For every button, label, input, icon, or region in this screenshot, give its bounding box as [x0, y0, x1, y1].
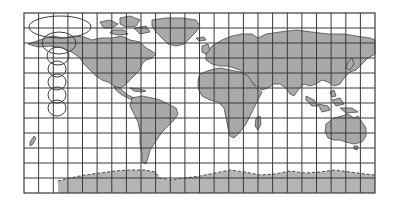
north-america [28, 36, 156, 90]
iceland [196, 37, 206, 41]
caribbean-islands [130, 88, 146, 92]
new-zealand [30, 136, 36, 146]
antarctica [58, 170, 375, 193]
arctic-islands [100, 16, 150, 35]
distortion-ellipse [48, 61, 66, 77]
distortion-ellipse [48, 100, 66, 116]
distortion-ellipse [47, 47, 69, 65]
distortion-ellipse [48, 87, 66, 103]
world-map-svg [0, 0, 395, 208]
southeast-asia-islands [306, 90, 358, 113]
greenland [152, 18, 200, 46]
world-map-figure [0, 0, 395, 208]
